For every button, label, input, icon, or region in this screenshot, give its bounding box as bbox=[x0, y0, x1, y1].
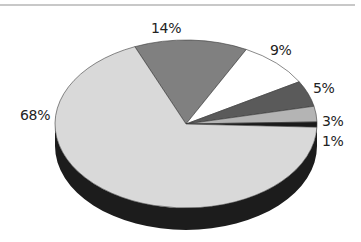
pie-chart bbox=[0, 0, 361, 242]
label-1-percent: 1% bbox=[322, 133, 344, 149]
label-14-percent: 14% bbox=[151, 20, 181, 36]
label-5-percent: 5% bbox=[313, 80, 335, 96]
label-3-percent: 3% bbox=[322, 113, 344, 129]
label-68-percent: 68% bbox=[20, 107, 50, 123]
label-9-percent: 9% bbox=[270, 42, 292, 58]
